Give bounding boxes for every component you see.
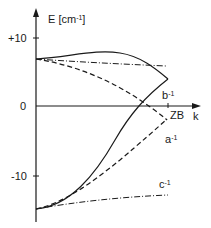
curve-dashed-lower [36,119,167,209]
curve-dashed-upper [36,59,167,120]
curve-solid-lower [36,79,168,209]
x-axis-arrow-icon [192,103,201,109]
annotation-c: c-1 [159,179,171,190]
y-tick-label-zero: 0 [20,101,26,112]
y-axis-arrow-icon [33,8,39,17]
y-axis-label: E [cm-1] [48,14,85,25]
curve-dashdot-lower [36,195,168,209]
y-tick-label-minus10: -10 [11,171,27,182]
x-tick-label-zb: ZB [170,110,184,121]
x-axis-label: k [193,111,199,122]
y-tick-label-plus10: +10 [8,33,27,44]
annotation-b: b-1 [162,90,174,101]
annotation-a: a-1 [165,134,177,145]
